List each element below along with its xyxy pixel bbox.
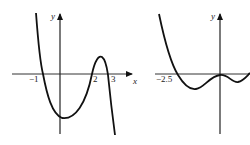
polynomial-graphs-figure: y −1 2 3 x y −2.5 <box>0 0 250 145</box>
left-tick-neg1: −1 <box>29 74 39 84</box>
right-y-label: y <box>210 11 215 21</box>
left-y-label: y <box>50 11 55 21</box>
left-tick-3: 3 <box>111 74 116 84</box>
left-x-label: x <box>132 76 137 86</box>
right-graph: y −2.5 <box>155 11 250 134</box>
right-curve <box>159 14 250 89</box>
left-graph: y −1 2 3 x <box>12 11 137 135</box>
right-tick-neg2-5: −2.5 <box>156 74 173 84</box>
left-tick-2: 2 <box>93 74 98 84</box>
